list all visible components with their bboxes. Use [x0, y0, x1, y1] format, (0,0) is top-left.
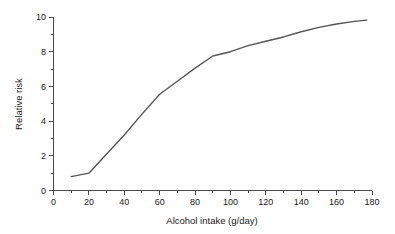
y-axis-tick-labels: 0246810	[36, 12, 46, 196]
y-tick-label: 8	[41, 47, 46, 57]
x-tick-label: 120	[258, 197, 273, 207]
chart-container: 020406080100120140160180 0246810 Alcohol…	[0, 0, 395, 234]
x-tick-label: 180	[364, 197, 379, 207]
y-tick-label: 10	[36, 12, 46, 22]
x-tick-label: 160	[329, 197, 344, 207]
y-tick-label: 4	[41, 116, 46, 126]
x-axis-title: Alcohol intake (g/day)	[166, 215, 257, 226]
x-tick-label: 100	[223, 197, 238, 207]
x-tick-label: 0	[51, 197, 56, 207]
data-series-group	[71, 20, 367, 177]
x-tick-label: 80	[190, 197, 200, 207]
x-tick-label: 60	[155, 197, 165, 207]
y-tick-label: 6	[41, 82, 46, 92]
x-axis-tick-labels: 020406080100120140160180	[51, 197, 380, 207]
y-tick-label: 2	[41, 151, 46, 161]
y-axis-title: Relative risk	[13, 78, 24, 130]
relative-risk-line-chart: 020406080100120140160180 0246810 Alcohol…	[0, 0, 395, 234]
data-curve-line	[71, 20, 367, 177]
y-tick-label: 0	[41, 186, 46, 196]
plot-axes	[53, 17, 372, 191]
x-tick-label: 140	[294, 197, 309, 207]
x-tick-label: 20	[84, 197, 94, 207]
x-tick-label: 40	[119, 197, 129, 207]
